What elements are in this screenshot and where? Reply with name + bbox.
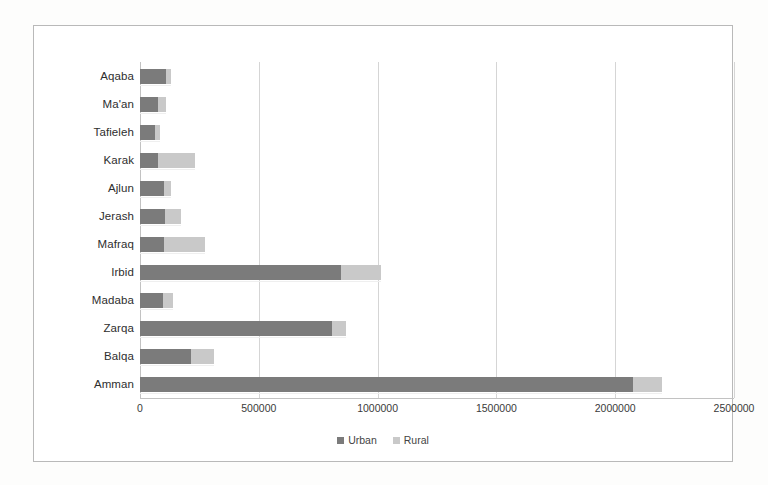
category-label: Amman bbox=[94, 378, 134, 390]
bar-segment-rural[interactable] bbox=[341, 265, 381, 280]
x-tick-label: 2000000 bbox=[595, 402, 636, 414]
legend-item-urban[interactable]: Urban bbox=[337, 434, 377, 446]
legend-label: Urban bbox=[348, 434, 377, 446]
bar-segment-urban[interactable] bbox=[140, 69, 166, 84]
bar-segment-rural[interactable] bbox=[633, 377, 662, 392]
legend-label: Rural bbox=[404, 434, 429, 446]
bar-shadow bbox=[140, 309, 173, 310]
bar-row[interactable]: Jerash bbox=[140, 202, 734, 230]
category-label: Tafieleh bbox=[94, 126, 134, 138]
bar-row[interactable]: Balqa bbox=[140, 342, 734, 370]
bar-row[interactable]: Karak bbox=[140, 146, 734, 174]
bar-shadow bbox=[140, 85, 171, 86]
x-tick-label: 1500000 bbox=[476, 402, 517, 414]
bar-row[interactable]: Ajlun bbox=[140, 174, 734, 202]
category-label: Ma'an bbox=[103, 98, 134, 110]
bar-segment-urban[interactable] bbox=[140, 125, 155, 140]
bar-segment-rural[interactable] bbox=[166, 69, 171, 84]
x-tick-label: 2500000 bbox=[714, 402, 755, 414]
chart-frame: AqabaMa'anTafielehKarakAjlunJerashMafraq… bbox=[33, 25, 733, 462]
bar-segment-urban[interactable] bbox=[140, 293, 163, 308]
chart-legend: UrbanRural bbox=[34, 434, 732, 446]
legend-item-rural[interactable]: Rural bbox=[393, 434, 429, 446]
bar-shadow bbox=[140, 169, 195, 170]
bar-row[interactable]: Mafraq bbox=[140, 230, 734, 258]
bar-segment-urban[interactable] bbox=[140, 97, 158, 112]
bar-shadow bbox=[140, 141, 160, 142]
bar-segment-urban[interactable] bbox=[140, 349, 191, 364]
bar-segment-urban[interactable] bbox=[140, 209, 165, 224]
x-tick-label: 0 bbox=[137, 402, 143, 414]
urban-swatch bbox=[337, 437, 344, 444]
bar-shadow bbox=[140, 197, 171, 198]
bar-segment-urban[interactable] bbox=[140, 377, 633, 392]
category-label: Zarqa bbox=[103, 322, 134, 334]
bar-shadow bbox=[140, 113, 166, 114]
bar-shadow bbox=[140, 337, 346, 338]
bar-shadow bbox=[140, 365, 214, 366]
bar-segment-rural[interactable] bbox=[332, 321, 345, 336]
bar-row[interactable]: Madaba bbox=[140, 286, 734, 314]
category-label: Balqa bbox=[104, 350, 134, 362]
gridline-2500000 bbox=[734, 62, 735, 398]
category-axis-line bbox=[140, 398, 734, 399]
x-tick-label: 1000000 bbox=[357, 402, 398, 414]
bar-segment-urban[interactable] bbox=[140, 237, 164, 252]
category-label: Irbid bbox=[111, 266, 134, 278]
bar-segment-rural[interactable] bbox=[158, 97, 166, 112]
bar-segment-rural[interactable] bbox=[155, 125, 160, 140]
bar-shadow bbox=[140, 225, 181, 226]
category-label: Jerash bbox=[99, 210, 134, 222]
bar-segment-rural[interactable] bbox=[163, 293, 173, 308]
bar-shadow bbox=[140, 281, 381, 282]
bar-segment-rural[interactable] bbox=[164, 181, 171, 196]
bar-segment-rural[interactable] bbox=[191, 349, 214, 364]
bar-shadow bbox=[140, 253, 205, 254]
bar-segment-rural[interactable] bbox=[165, 209, 181, 224]
bar-row[interactable]: Ma'an bbox=[140, 90, 734, 118]
bar-segment-rural[interactable] bbox=[158, 153, 195, 168]
bar-segment-urban[interactable] bbox=[140, 265, 341, 280]
x-tick-label: 500000 bbox=[241, 402, 276, 414]
category-label: Ajlun bbox=[108, 182, 134, 194]
bar-shadow bbox=[140, 393, 662, 394]
bar-row[interactable]: Tafieleh bbox=[140, 118, 734, 146]
plot-area: AqabaMa'anTafielehKarakAjlunJerashMafraq… bbox=[140, 62, 734, 398]
bar-segment-urban[interactable] bbox=[140, 321, 332, 336]
bar-segment-rural[interactable] bbox=[164, 237, 205, 252]
category-label: Madaba bbox=[92, 294, 134, 306]
category-label: Aqaba bbox=[100, 70, 134, 82]
category-label: Mafraq bbox=[98, 238, 134, 250]
category-label: Karak bbox=[103, 154, 134, 166]
bar-row[interactable]: Aqaba bbox=[140, 62, 734, 90]
bar-segment-urban[interactable] bbox=[140, 153, 158, 168]
rural-swatch bbox=[393, 437, 400, 444]
bar-segment-urban[interactable] bbox=[140, 181, 164, 196]
